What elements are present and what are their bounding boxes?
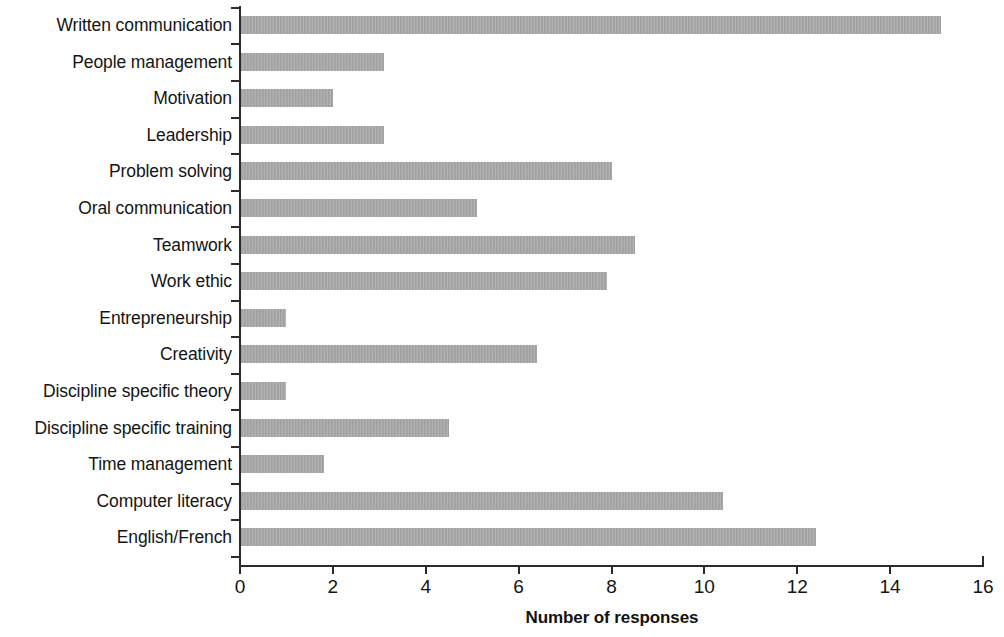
y-axis-tick [231,7,240,9]
category-label: Oral communication [0,198,232,218]
bar [240,89,333,107]
y-axis-tick [231,556,240,558]
x-axis-tick [611,565,613,574]
category-label: Creativity [0,344,232,364]
x-axis-tick [796,565,798,574]
y-axis-tick [231,263,240,265]
bar [240,126,384,144]
bar [240,53,384,71]
y-axis-tick [231,336,240,338]
category-label: Time management [0,454,232,474]
y-axis-tick [231,226,240,228]
bar [240,382,286,400]
category-label: Problem solving [0,161,232,181]
bar [240,492,723,510]
category-label: Motivation [0,88,232,108]
x-axis-tick-label: 2 [303,576,363,598]
bar [240,199,477,217]
y-axis-tick [231,446,240,448]
plot-area [240,0,984,566]
category-label: Work ethic [0,271,232,291]
x-axis-tick [889,565,891,574]
category-label: English/French [0,527,232,547]
x-axis-tick [425,565,427,574]
x-axis-tick-label: 4 [396,576,456,598]
x-axis-tick-label: 10 [674,576,734,598]
bar-chart: Written communicationPeople managementMo… [0,0,1004,637]
x-axis-tick-label: 8 [582,576,642,598]
category-label: Entrepreneurship [0,308,232,328]
y-axis-tick [231,43,240,45]
category-label: Computer literacy [0,491,232,511]
bar [240,272,607,290]
y-axis-tick [231,300,240,302]
category-label: Written communication [0,15,232,35]
bar [240,528,816,546]
y-axis-tick [231,409,240,411]
bar [240,419,449,437]
category-label: People management [0,52,232,72]
category-axis-labels: Written communicationPeople managementMo… [0,0,232,566]
x-axis-title: Number of responses [240,608,984,628]
y-axis-tick [231,80,240,82]
bar [240,455,324,473]
bar [240,309,286,327]
y-axis-tick [231,190,240,192]
x-axis-tick [518,565,520,574]
y-axis-tick [231,117,240,119]
y-axis-tick [231,483,240,485]
x-axis-tick-label: 6 [489,576,549,598]
x-axis-tick [239,565,241,574]
x-axis-tick-label: 12 [767,576,827,598]
x-axis-tick [982,556,984,565]
bar [240,236,635,254]
x-axis-tick-label: 0 [210,576,270,598]
category-label: Discipline specific training [0,418,232,438]
category-label: Discipline specific theory [0,381,232,401]
bar [240,16,941,34]
bar [240,162,612,180]
y-axis-tick [231,373,240,375]
category-label: Leadership [0,125,232,145]
bar [240,345,537,363]
y-axis-tick [231,153,240,155]
x-axis-tick [703,565,705,574]
y-axis-tick [231,519,240,521]
x-axis-tick [332,565,334,574]
category-label: Teamwork [0,235,232,255]
x-axis-tick-label: 14 [860,576,920,598]
x-axis-tick-label: 16 [953,576,1004,598]
